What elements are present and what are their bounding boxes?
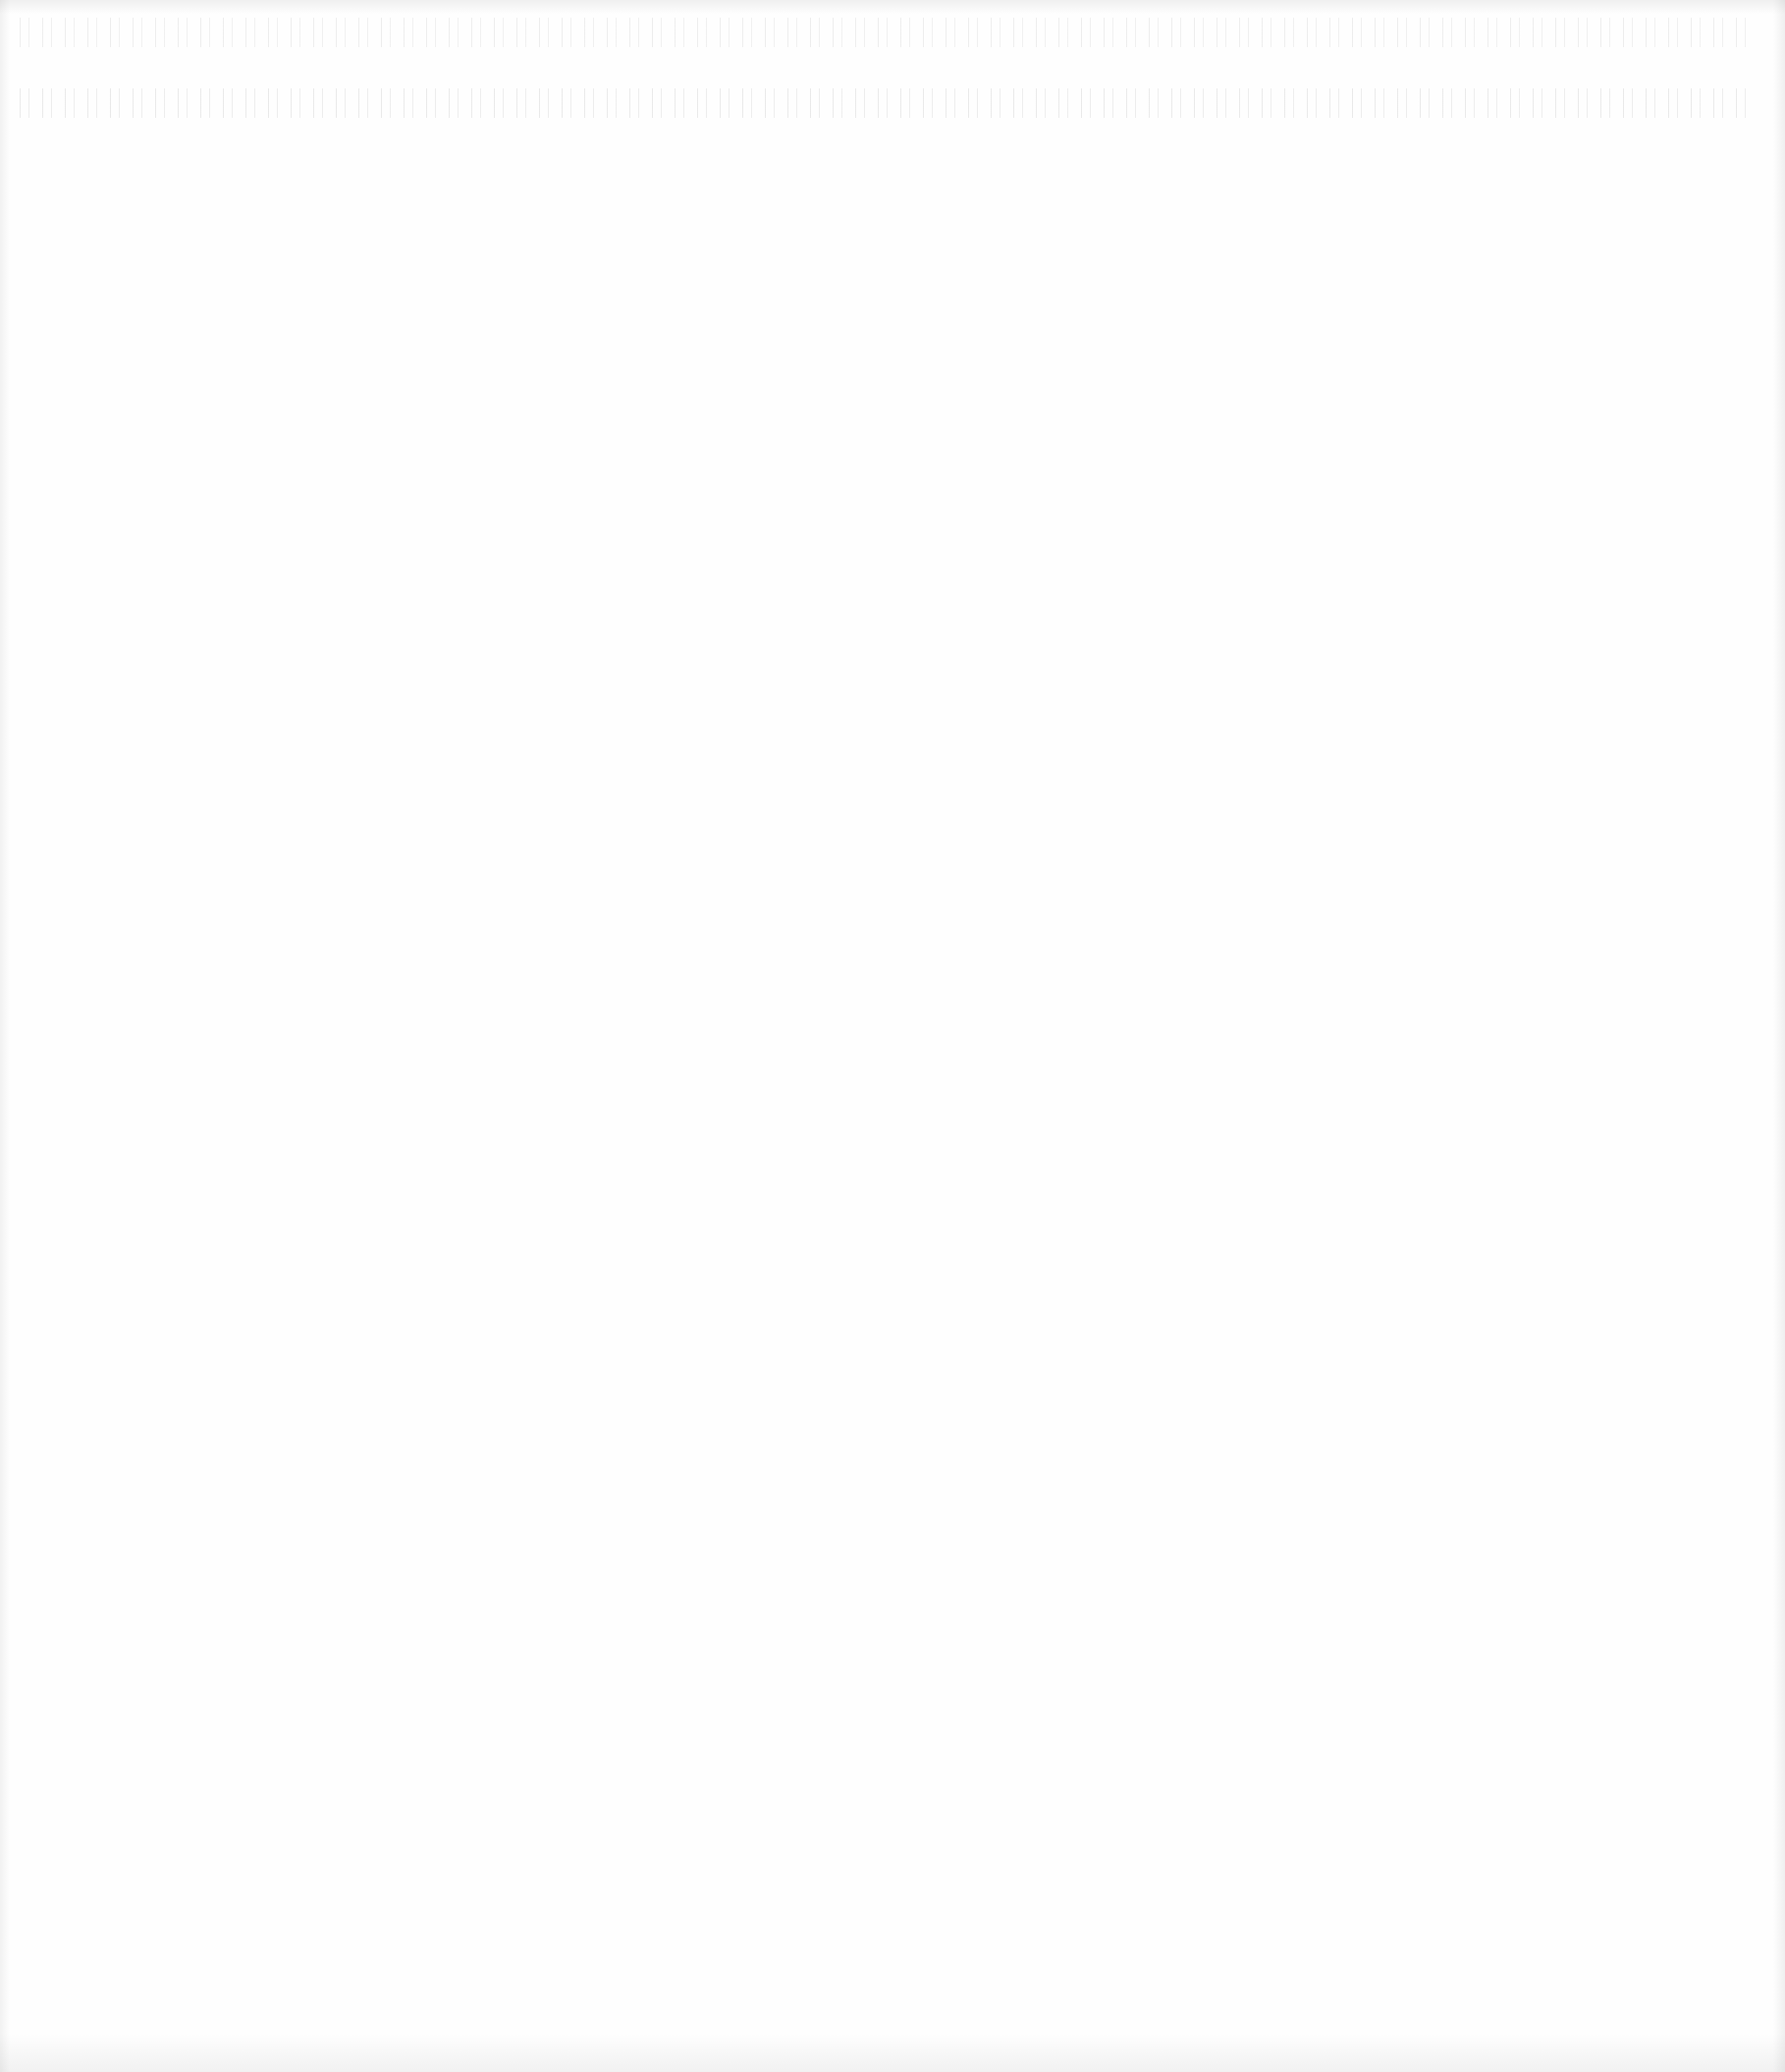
scan-edge-shadow-bottom	[0, 2033, 1785, 2072]
scan-edge-shadow-left	[0, 0, 10, 2072]
bleed-through-text-line	[20, 18, 1746, 47]
blank-document-page	[0, 0, 1785, 2072]
bleed-through-text-line	[20, 88, 1746, 118]
scan-edge-shadow-top	[0, 0, 1785, 14]
scan-edge-shadow-right	[1773, 0, 1785, 2072]
